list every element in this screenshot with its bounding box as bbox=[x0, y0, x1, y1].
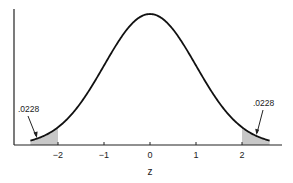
right-arrowhead-icon bbox=[255, 129, 259, 135]
right-annotation-label: .0228 bbox=[253, 98, 275, 108]
x-tick-label: −1 bbox=[99, 150, 109, 160]
x-tick-label: −2 bbox=[53, 150, 63, 160]
normal-curve bbox=[30, 14, 269, 141]
right-annotation: .0228 bbox=[253, 98, 275, 135]
x-axis-label: z bbox=[148, 166, 153, 177]
normal-distribution-chart: −2−1012 .0228 .0228 z bbox=[0, 0, 293, 183]
left-annotation: .0228 bbox=[18, 104, 40, 138]
x-tick-label: 0 bbox=[147, 150, 152, 160]
left-annotation-label: .0228 bbox=[18, 104, 40, 114]
left-arrowhead-icon bbox=[34, 132, 38, 138]
x-tick-label: 2 bbox=[239, 150, 244, 160]
x-tick-label: 1 bbox=[193, 150, 198, 160]
